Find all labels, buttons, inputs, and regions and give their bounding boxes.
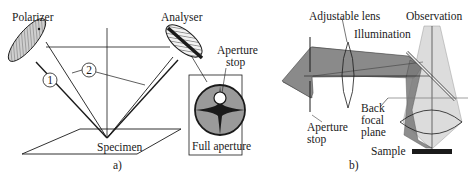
- panel-a-caption: a): [113, 159, 122, 172]
- aperture-stop-hole: [214, 92, 226, 104]
- back-focal-plane-label-2: focal: [361, 114, 384, 126]
- panel-b: Adjustable lens Illumination Observation…: [282, 10, 468, 172]
- polarizer-label: Polarizer: [12, 11, 54, 23]
- sample: [412, 149, 452, 154]
- full-aperture-label: Full aperture: [192, 140, 251, 153]
- analyser-leader: [192, 57, 207, 82]
- specimen-label: Specimen: [97, 141, 143, 154]
- diagram-canvas: 1 2 Polarizer Analyser Specimen a) Apert…: [0, 0, 472, 179]
- ray-1-label: 1: [47, 74, 53, 86]
- back-focal-plane-label-3: plane: [361, 126, 386, 139]
- analyser-label: Analyser: [161, 11, 203, 24]
- reflected-ray-1: [107, 60, 178, 138]
- illumination-label: Illumination: [354, 28, 411, 40]
- observation-label: Observation: [406, 10, 462, 22]
- back-focal-plane-label-1: Back: [361, 102, 385, 114]
- ray-2-label: 2: [86, 64, 92, 76]
- panel-b-caption: b): [349, 159, 359, 172]
- panel-a: 1 2 Polarizer Analyser Specimen a) Apert…: [3, 11, 258, 172]
- adjustable-lens-label: Adjustable lens: [309, 10, 381, 23]
- incident-ray-2: [46, 42, 107, 138]
- polarizer-mark: [38, 28, 40, 30]
- aperture-stop-label-line2: stop: [226, 56, 245, 69]
- sample-label: Sample: [371, 145, 406, 158]
- reflected-ray-2: [107, 57, 173, 138]
- aperture-stop-label-2: stop: [307, 133, 326, 146]
- figure: 1 2 Polarizer Analyser Specimen a) Apert…: [0, 0, 472, 179]
